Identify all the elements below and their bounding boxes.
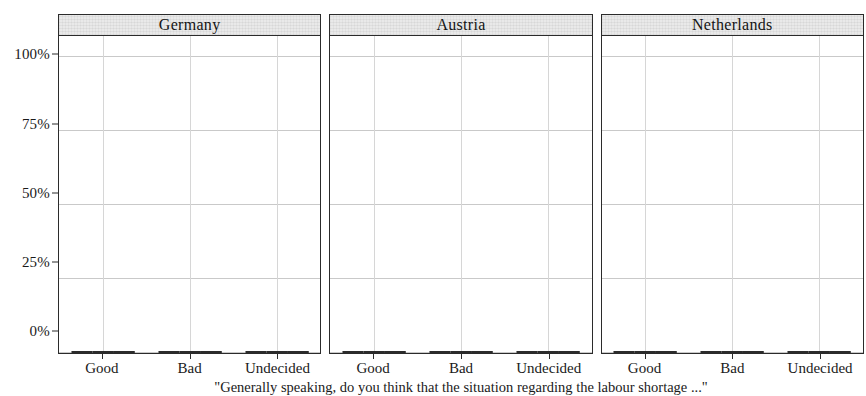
gridline-vertical <box>461 36 462 353</box>
x-tick-mark <box>645 354 646 359</box>
bar-group <box>701 351 764 353</box>
plot-area-austria <box>330 36 591 353</box>
bar-group <box>342 351 405 353</box>
y-tick-label: 75% <box>22 116 50 133</box>
bar <box>429 351 450 353</box>
plot-area-netherlands <box>602 36 863 353</box>
bar <box>113 351 134 353</box>
bar-group <box>71 351 134 353</box>
bar <box>287 351 308 353</box>
gridline-vertical <box>277 36 278 353</box>
gridline-vertical <box>645 36 646 353</box>
bar <box>92 351 113 353</box>
x-tick-label: Good <box>357 360 390 377</box>
x-tick-mark <box>373 354 374 359</box>
gridline-vertical <box>374 36 375 353</box>
x-axis: GoodBadUndecided GoodBadUndecided GoodBa… <box>58 354 864 380</box>
x-tick-mark <box>732 354 733 359</box>
x-axis-germany: GoodBadUndecided <box>58 354 321 380</box>
bar <box>200 351 221 353</box>
gridline-vertical <box>548 36 549 353</box>
bar <box>245 351 266 353</box>
panel-austria: Austria <box>329 14 592 354</box>
plot-frame-austria <box>329 36 592 354</box>
x-tick-mark <box>549 354 550 359</box>
x-tick-mark <box>102 354 103 359</box>
panel-title-austria: Austria <box>436 16 485 34</box>
bar <box>158 351 179 353</box>
bar-group <box>158 351 221 353</box>
panel-germany: Germany <box>58 14 321 354</box>
bar <box>517 351 538 353</box>
gridline-vertical <box>103 36 104 353</box>
bar-group <box>517 351 580 353</box>
bar <box>363 351 384 353</box>
figure-caption: "Generally speaking, do you think that t… <box>58 379 864 396</box>
panel-title-strip-austria: Austria <box>329 14 592 36</box>
plot-frame-netherlands <box>601 36 864 354</box>
panel-title-netherlands: Netherlands <box>692 16 773 34</box>
x-tick-mark <box>461 354 462 359</box>
bar <box>830 351 851 353</box>
y-tick-label: 25% <box>22 254 50 271</box>
x-tick-label: Bad <box>449 360 473 377</box>
bar <box>471 351 492 353</box>
bar <box>179 351 200 353</box>
x-tick-label: Good <box>628 360 661 377</box>
bar <box>722 351 743 353</box>
bar <box>559 351 580 353</box>
y-tick-label: 50% <box>22 185 50 202</box>
bar-group <box>429 351 492 353</box>
y-tick-label: 0% <box>30 323 50 340</box>
x-tick-mark <box>190 354 191 359</box>
bar <box>656 351 677 353</box>
bar <box>743 351 764 353</box>
bar <box>384 351 405 353</box>
x-tick-label: Undecided <box>516 360 581 377</box>
panel-title-strip-germany: Germany <box>58 14 321 36</box>
gridline-vertical <box>190 36 191 353</box>
x-tick-label: Undecided <box>245 360 310 377</box>
x-tick-mark <box>277 354 278 359</box>
panel-row: Germany Austria Netherlands <box>58 14 864 354</box>
bar <box>450 351 471 353</box>
x-axis-austria: GoodBadUndecided <box>329 354 592 380</box>
y-tick-label: 100% <box>14 46 50 63</box>
bar <box>809 351 830 353</box>
x-tick-label: Bad <box>178 360 202 377</box>
bar <box>71 351 92 353</box>
x-tick-label: Bad <box>720 360 744 377</box>
bar-group <box>614 351 677 353</box>
bar <box>342 351 363 353</box>
panel-title-germany: Germany <box>159 16 221 34</box>
plot-area-germany <box>59 36 320 353</box>
gridline-vertical <box>819 36 820 353</box>
bar <box>635 351 656 353</box>
bar-group <box>245 351 308 353</box>
bar <box>614 351 635 353</box>
panel-netherlands: Netherlands <box>601 14 864 354</box>
bar <box>788 351 809 353</box>
x-tick-label: Good <box>85 360 118 377</box>
bar-group <box>788 351 851 353</box>
bar <box>266 351 287 353</box>
gridline-vertical <box>732 36 733 353</box>
panel-title-strip-netherlands: Netherlands <box>601 14 864 36</box>
x-tick-mark <box>820 354 821 359</box>
bar <box>701 351 722 353</box>
x-tick-label: Undecided <box>788 360 853 377</box>
bar <box>538 351 559 353</box>
plot-frame-germany <box>58 36 321 354</box>
x-axis-netherlands: GoodBadUndecided <box>601 354 864 380</box>
y-axis: 100% 75% 50% 25% 0% <box>0 24 58 336</box>
